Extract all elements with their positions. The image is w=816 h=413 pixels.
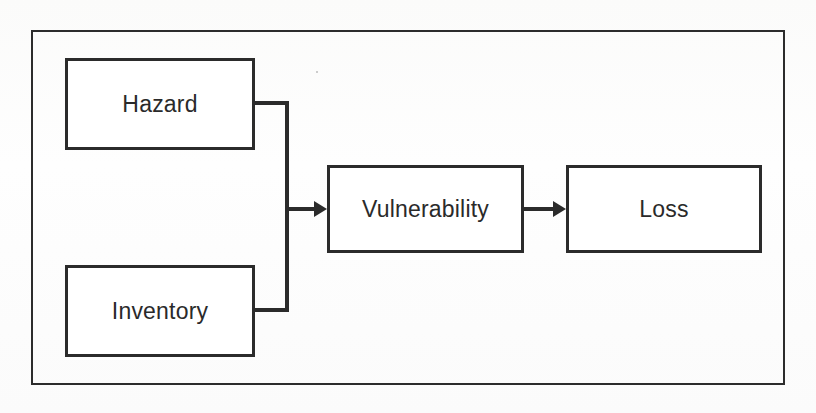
edge-inventory-horizontal-segment [253, 308, 289, 312]
node-inventory-label: Inventory [112, 300, 208, 323]
node-hazard-label: Hazard [122, 93, 197, 116]
node-loss-label: Loss [639, 198, 688, 221]
node-loss[interactable]: Loss [566, 165, 762, 253]
node-inventory[interactable]: Inventory [65, 265, 255, 357]
node-vulnerability[interactable]: Vulnerability [327, 165, 524, 253]
diagram-canvas: Hazard Inventory Vulnerability Loss [0, 0, 816, 413]
node-hazard[interactable]: Hazard [65, 58, 255, 150]
node-vulnerability-label: Vulnerability [362, 198, 489, 221]
arrowhead-to-loss-icon [553, 201, 566, 217]
edge-hazard-horizontal-segment [253, 101, 289, 105]
arrowhead-to-vulnerability-icon [314, 201, 327, 217]
